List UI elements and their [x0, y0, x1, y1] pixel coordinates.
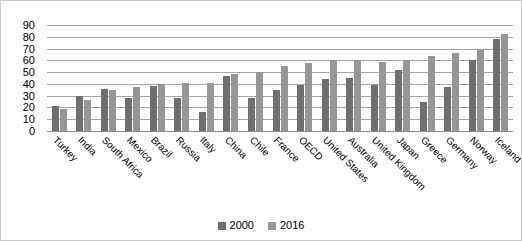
- bar-2000: [297, 85, 304, 131]
- bar-cluster: [292, 25, 317, 131]
- bars-layer: [47, 25, 513, 131]
- bar-cluster: [390, 25, 415, 131]
- bar-2000: [469, 60, 476, 131]
- bar-2016: [354, 60, 361, 131]
- bar-2000: [125, 98, 132, 131]
- bar-cluster: [194, 25, 219, 131]
- y-axis-tick-label: 20: [23, 102, 35, 113]
- bar-cluster: [268, 25, 293, 131]
- y-axis: 9080706050403020100: [1, 25, 41, 131]
- x-axis-label-slot: Germany: [440, 132, 465, 204]
- legend-swatch-icon: [218, 222, 226, 230]
- bar-cluster: [170, 25, 195, 131]
- bar-2016: [330, 60, 337, 131]
- bar-chart-figure: 9080706050403020100 TurkeyIndiaSouth Afr…: [0, 0, 522, 241]
- bar-2016: [477, 50, 484, 131]
- bar-cluster: [96, 25, 121, 131]
- bar-2016: [109, 90, 116, 131]
- x-axis-label-slot: Australia: [341, 132, 366, 204]
- bar-2000: [150, 86, 157, 131]
- bar-cluster: [489, 25, 514, 131]
- bar-2000: [273, 90, 280, 131]
- bar-2016: [60, 109, 67, 131]
- bar-2016: [182, 83, 189, 131]
- bar-2016: [403, 60, 410, 131]
- bar-cluster: [243, 25, 268, 131]
- bar-2016: [158, 84, 165, 131]
- y-axis-tick-label: 50: [23, 67, 35, 78]
- plot-area: [47, 25, 513, 131]
- bar-2000: [322, 79, 329, 131]
- bar-cluster: [121, 25, 146, 131]
- x-axis-label-slot: India: [72, 132, 97, 204]
- bar-2000: [174, 98, 181, 131]
- x-axis-label-slot: Russia: [170, 132, 195, 204]
- x-axis-label-slot: Japan: [390, 132, 415, 204]
- x-axis-tick-label: Iceland: [493, 135, 522, 165]
- x-axis-label-slot: Norway: [464, 132, 489, 204]
- x-axis-label-slot: China: [219, 132, 244, 204]
- bar-2000: [101, 89, 108, 131]
- x-axis-label-slot: Chile: [243, 132, 268, 204]
- bar-cluster: [341, 25, 366, 131]
- bar-2000: [199, 112, 206, 131]
- bar-2016: [231, 74, 238, 131]
- bar-2000: [346, 78, 353, 131]
- bar-cluster: [415, 25, 440, 131]
- bar-2000: [371, 85, 378, 131]
- bar-2016: [379, 62, 386, 131]
- x-axis-label-slot: Greece: [415, 132, 440, 204]
- bar-2016: [207, 83, 214, 131]
- bar-2016: [133, 87, 140, 131]
- x-axis-tick-label: Italy: [198, 135, 218, 155]
- bar-cluster: [145, 25, 170, 131]
- bar-2000: [395, 70, 402, 131]
- y-axis-tick-label: 70: [23, 43, 35, 54]
- x-axis-label-slot: France: [268, 132, 293, 204]
- y-axis-tick-label: 0: [29, 126, 35, 137]
- bar-2016: [281, 66, 288, 131]
- bar-cluster: [440, 25, 465, 131]
- bar-cluster: [72, 25, 97, 131]
- x-axis-label-slot: Mexico: [121, 132, 146, 204]
- x-axis-label-slot: OECD: [292, 132, 317, 204]
- x-axis-label-slot: Italy: [194, 132, 219, 204]
- bar-2000: [248, 98, 255, 131]
- y-axis-tick-label: 30: [23, 90, 35, 101]
- bar-2000: [223, 76, 230, 131]
- bar-cluster: [47, 25, 72, 131]
- bar-2000: [444, 87, 451, 131]
- bar-cluster: [464, 25, 489, 131]
- bar-2016: [428, 56, 435, 131]
- legend-item[interactable]: 2000: [218, 220, 254, 231]
- bar-2016: [305, 63, 312, 131]
- bar-cluster: [366, 25, 391, 131]
- bar-cluster: [317, 25, 342, 131]
- y-axis-tick-label: 40: [23, 78, 35, 89]
- bar-2016: [501, 34, 508, 131]
- x-axis-label-slot: Brazil: [145, 132, 170, 204]
- bar-2016: [452, 53, 459, 131]
- x-axis-tick-label: India: [76, 135, 98, 157]
- legend-label: 2016: [280, 220, 304, 231]
- bar-2016: [84, 100, 91, 131]
- y-axis-tick-label: 10: [23, 114, 35, 125]
- legend-item[interactable]: 2016: [268, 220, 304, 231]
- chart-legend: 20002016: [1, 220, 521, 231]
- bar-2000: [52, 106, 59, 131]
- x-axis-label-slot: Turkey: [47, 132, 72, 204]
- y-axis-tick-label: 60: [23, 55, 35, 66]
- bar-2000: [76, 96, 83, 131]
- y-axis-tick-label: 80: [23, 31, 35, 42]
- x-axis-label-slot: South Africa: [96, 132, 121, 204]
- x-axis-labels: TurkeyIndiaSouth AfricaMexicoBrazilRussi…: [47, 132, 513, 204]
- x-axis-label-slot: United States: [317, 132, 342, 204]
- legend-label: 2000: [230, 220, 254, 231]
- x-axis-label-slot: United Kingdom: [366, 132, 391, 204]
- y-axis-tick-label: 90: [23, 20, 35, 31]
- bar-2000: [420, 102, 427, 131]
- bar-cluster: [219, 25, 244, 131]
- bar-2000: [493, 39, 500, 131]
- bar-2016: [256, 72, 263, 131]
- x-axis-label-slot: Iceland: [489, 132, 514, 204]
